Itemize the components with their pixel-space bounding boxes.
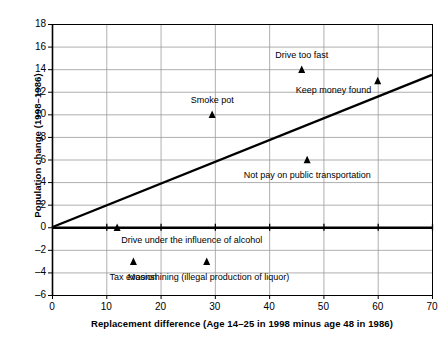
- y-tick-label: –4: [22, 267, 46, 277]
- y-axis-title: Population change (1998–1986): [32, 21, 43, 271]
- y-tick-label: 2: [22, 200, 46, 210]
- y-tick-label: 8: [22, 132, 46, 142]
- y-tick-label: –2: [22, 245, 46, 255]
- y-tick-label: 18: [22, 19, 46, 29]
- point-label: Drive too fast: [275, 50, 328, 60]
- point-label: Keep money found: [296, 85, 372, 95]
- x-tick-label: 50: [308, 302, 338, 312]
- x-tick-label: 0: [37, 302, 67, 312]
- x-tick-label: 40: [254, 302, 284, 312]
- y-tick-label: –6: [22, 290, 46, 300]
- x-axis-title: Replacement difference (Age 14–25 in 199…: [52, 318, 432, 329]
- plot-background: [52, 24, 432, 295]
- point-label: Drive under the influence of alcohol: [121, 235, 262, 245]
- y-tick-label: 6: [22, 155, 46, 165]
- x-tick-label: 70: [417, 302, 447, 312]
- scatter-chart: Population change (1998–1986) Replacemen…: [0, 0, 448, 341]
- plot-area: [0, 0, 448, 341]
- y-tick-label: 10: [22, 109, 46, 119]
- x-tick-label: 20: [146, 302, 176, 312]
- y-tick-label: 14: [22, 64, 46, 74]
- point-label: Not pay on public transportation: [244, 170, 371, 180]
- y-tick-label: 4: [22, 177, 46, 187]
- x-tick-label: 10: [91, 302, 121, 312]
- y-tick-label: 16: [22, 42, 46, 52]
- x-tick-label: 60: [363, 302, 393, 312]
- y-tick-label: 0: [22, 222, 46, 232]
- point-label: Moonshining (illegal production of liquo…: [128, 272, 290, 282]
- point-label: Smoke pot: [191, 95, 234, 105]
- x-tick-label: 30: [200, 302, 230, 312]
- y-tick-label: 12: [22, 87, 46, 97]
